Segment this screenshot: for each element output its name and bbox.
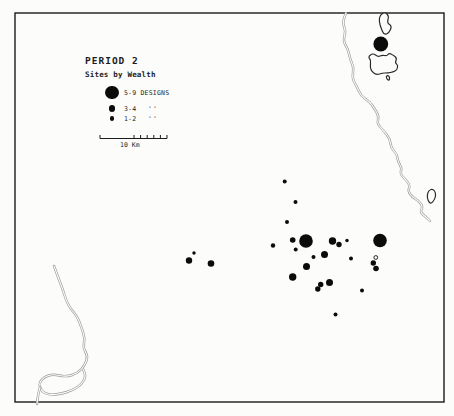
site-dot-wealth-3-4 [321, 251, 328, 258]
site-dot-wealth-1-2 [283, 180, 287, 184]
north-islet-outline [379, 13, 391, 34]
site-dot-wealth-3-4 [318, 282, 323, 287]
site-open-circle [374, 256, 378, 260]
site-dot-wealth-5-9 [373, 234, 387, 248]
site-dot-wealth-3-4 [371, 260, 376, 265]
site-dot-wealth-1-2 [192, 251, 195, 254]
map-title: PERIOD 2 [85, 55, 139, 66]
site-dot-wealth-3-4 [208, 260, 215, 267]
site-dot-wealth-3-4 [336, 242, 341, 247]
map-canvas [0, 0, 454, 416]
legend-dot-large-icon [105, 86, 119, 100]
site-dot-wealth-3-4 [289, 273, 296, 280]
site-dot-wealth-1-2 [294, 200, 298, 204]
legend-label: 1-2 [124, 115, 148, 123]
site-dot-wealth-5-9 [299, 234, 313, 248]
site-dot-wealth-3-4 [290, 237, 296, 243]
site-dot-wealth-1-2 [271, 243, 275, 247]
site-dot-wealth-3-4 [329, 237, 336, 244]
site-dot-wealth-3-4 [373, 266, 379, 272]
site-dot-wealth-5-9 [373, 37, 388, 52]
legend-dot-small-icon [110, 116, 114, 120]
legend-dot-box [104, 86, 120, 100]
site-dot-wealth-1-2 [334, 313, 338, 317]
east-islet-outline [427, 189, 435, 203]
site-dot-wealth-3-4 [315, 286, 320, 291]
map-subtitle: Sites by Wealth [85, 70, 156, 79]
southwest-river [40, 266, 87, 395]
large-island-outline [369, 54, 398, 75]
site-dot-wealth-3-4 [186, 257, 192, 263]
site-dot-wealth-1-2 [285, 220, 289, 224]
legend-dot-box [104, 116, 120, 120]
legend-ditto: '' [148, 115, 158, 123]
legend-label: 5-9 DESIGNS [124, 89, 169, 97]
site-dot-wealth-1-2 [349, 257, 353, 261]
site-dot-wealth-3-4 [303, 263, 310, 270]
scale-bar-label: 10 Km [120, 141, 140, 149]
island-tail-outline [386, 76, 389, 81]
site-dot-wealth-1-2 [360, 289, 364, 293]
legend-item-5-9: 5-9 DESIGNS [104, 86, 169, 100]
site-dot-wealth-1-2 [312, 255, 316, 259]
site-distribution-map: PERIOD 2 Sites by Wealth 5-9 DESIGNS 3-4… [0, 0, 454, 416]
site-dot-wealth-3-4 [326, 279, 333, 286]
legend-item-1-2: 1-2 '' [104, 112, 158, 126]
site-dot-wealth-1-2 [294, 248, 298, 252]
site-dot-wealth-1-2 [345, 239, 348, 242]
